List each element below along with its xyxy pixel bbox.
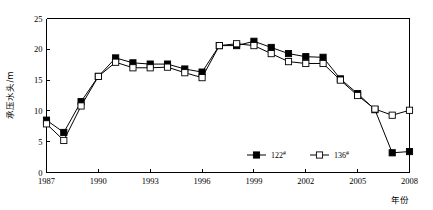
legend-marker-136 [316, 152, 322, 158]
data-point-136-1987 [43, 121, 49, 127]
data-point-136-1996 [199, 75, 205, 81]
y-tick-label: 15 [34, 75, 43, 85]
data-point-136-1995 [182, 70, 188, 76]
y-tick-label: 25 [34, 14, 43, 24]
legend-item-136: 136# [310, 150, 349, 160]
data-point-136-2004 [337, 77, 343, 83]
legend-superscript-136: # [346, 150, 349, 156]
data-point-122-2001 [285, 51, 291, 57]
data-point-122-2003 [320, 54, 326, 60]
legend-item-122: 122# [247, 150, 286, 160]
pressure-head-line-chart: 0510152025 19871990199319961999200220052… [0, 0, 433, 210]
data-point-136-2005 [355, 92, 361, 98]
series-136 [43, 41, 412, 144]
y-tick-label: 20 [34, 44, 43, 54]
data-point-136-2000 [268, 51, 274, 57]
data-point-122-1988 [61, 129, 67, 135]
data-point-136-1989 [78, 103, 84, 109]
x-tick-label: 2002 [297, 176, 314, 186]
y-axis-title: 承压水头/m [5, 71, 15, 118]
data-point-136-2008 [406, 107, 412, 113]
data-point-136-1988 [61, 137, 67, 143]
x-tick-label: 1996 [194, 176, 211, 186]
data-point-136-1993 [147, 65, 153, 71]
x-tick-label: 2008 [401, 176, 418, 186]
data-point-136-1990 [95, 73, 101, 79]
x-tick-label: 2005 [349, 176, 366, 186]
x-tick-label: 1999 [245, 176, 262, 186]
legend-label-136: 136# [334, 150, 349, 160]
y-tick-label: 5 [38, 137, 42, 147]
x-tick-label: 1990 [90, 176, 107, 186]
data-point-136-2006 [372, 106, 378, 112]
data-point-136-2002 [303, 60, 309, 66]
x-tick-label: 1993 [142, 176, 159, 186]
data-point-122-2002 [303, 54, 309, 60]
data-point-136-1999 [251, 43, 257, 49]
legend-label-122: 122# [271, 150, 286, 160]
data-point-136-1998 [234, 41, 240, 47]
data-point-122-2007 [389, 150, 395, 156]
legend-superscript-122: # [283, 150, 286, 156]
data-point-136-1994 [164, 64, 170, 70]
data-point-122-2008 [406, 148, 412, 154]
data-point-136-1992 [130, 65, 136, 71]
x-axis-title: 年份 [391, 195, 409, 205]
data-point-136-2003 [320, 60, 326, 66]
x-axis-ticks: 19871990199319961999200220052008 [38, 169, 418, 186]
data-point-122-2000 [268, 44, 274, 50]
x-tick-label: 1987 [38, 176, 55, 186]
chart-figure: 0510152025 19871990199319961999200220052… [0, 0, 433, 210]
data-point-136-1991 [113, 59, 119, 65]
chart-legend: 122#136# [247, 150, 349, 160]
data-point-136-2007 [389, 112, 395, 118]
y-tick-label: 10 [34, 106, 43, 116]
series-layer [43, 38, 412, 156]
data-point-136-1997 [216, 43, 222, 49]
legend-marker-122 [253, 152, 259, 158]
data-point-136-2001 [285, 59, 291, 65]
y-axis-ticks: 0510152025 [34, 14, 50, 178]
